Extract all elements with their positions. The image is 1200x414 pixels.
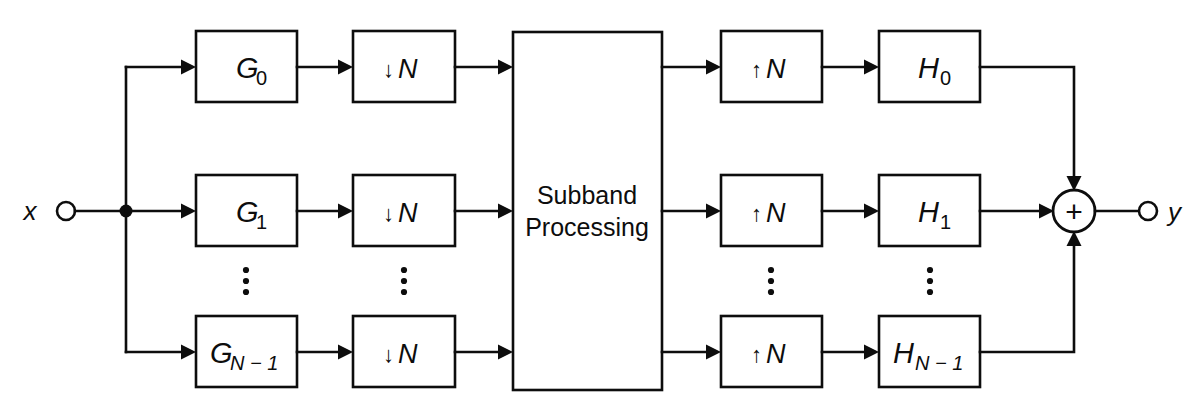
ellipsis-dot [401,289,407,295]
ellipsis-dot [243,278,249,284]
synthesis-filter-h0-subscript: 0 [940,67,951,89]
output-terminal-circle [1139,202,1157,220]
analysis-filter-g1-subscript: 1 [256,211,267,233]
interpolator-n1[interactable]: ↑ N [721,316,822,387]
analysis-filter-g0[interactable]: G 0 [196,31,297,102]
interpolator-1-factor: N [766,198,786,228]
input-terminal-group: x [22,196,133,226]
decimator-0[interactable]: ↓ N [353,31,455,102]
subband-processing-box[interactable] [513,32,662,390]
subband-coding-diagram: x G 0 G 1 G N − 1 [0,0,1200,414]
arrowhead-into-subband-0 [498,60,513,75]
arrowhead-into-h0 [864,60,879,75]
ellipsis-dot [243,267,249,273]
analysis-distribution-bus [126,60,196,360]
synthesis-filter-hn1-base: H [893,337,914,369]
output-label: y [1166,197,1183,227]
synthesis-filter-h0-base: H [918,52,939,84]
arrowhead-into-subband-2 [498,345,513,360]
synthesis-filter-h1-subscript: 1 [940,211,951,233]
input-label: x [22,196,38,226]
arrowhead-into-int0 [706,60,721,75]
arrowhead-into-h1 [864,204,879,219]
interpolator-0[interactable]: ↑ N [721,31,822,102]
arrowhead-into-g1 [181,204,196,219]
synthesis-filter-h1[interactable]: H 1 [879,175,980,246]
wire-hn1-to-summer [980,245,1074,352]
block-diagram-canvas: x G 0 G 1 G N − 1 [0,0,1200,414]
arrowhead-into-gn1 [181,345,196,360]
ellipsis-synthesis-filter-column [927,267,933,295]
arrowhead-into-dec1 [338,204,353,219]
ellipsis-dot [401,278,407,284]
synthesis-filter-hn1-subscript: N − 1 [915,352,963,374]
input-terminal-circle [57,202,75,220]
output-terminal-group: y [1095,197,1183,227]
analysis-filter-g0-subscript: 0 [256,67,267,89]
ellipsis-dot [243,289,249,295]
decimator-1-factor: N [398,198,418,228]
up-arrow-icon-n1: ↑ [751,342,762,367]
ellipsis-dot [401,267,407,273]
down-arrow-icon-1: ↓ [383,201,394,226]
interpolator-to-h-wires [822,60,879,360]
analysis-filter-gn1[interactable]: G N − 1 [196,316,297,387]
interpolator-0-factor: N [766,54,786,84]
ellipsis-interpolator-column [768,267,774,295]
ellipsis-decimator-column [401,267,407,295]
g-to-decimator-wires [297,60,353,360]
decimator-0-factor: N [398,54,418,84]
ellipsis-dot [927,267,933,273]
summer-node[interactable]: + [1053,190,1095,232]
wire-h0-to-summer [980,67,1074,177]
decimator-to-subband-wires [455,60,513,360]
interpolator-n1-factor: N [766,339,786,369]
interpolator-1[interactable]: ↑ N [721,175,822,246]
ellipsis-dot [768,289,774,295]
ellipsis-dot [768,278,774,284]
up-arrow-icon-0: ↑ [751,57,762,82]
ellipsis-dot [768,267,774,273]
subband-to-interpolator-wires [662,60,721,360]
subband-processing-label-line1: Subband [537,181,637,209]
analysis-filter-g1[interactable]: G 1 [196,175,297,246]
arrowhead-into-intn1 [706,345,721,360]
arrowhead-into-decn1 [338,345,353,360]
ellipsis-dot [927,289,933,295]
down-arrow-icon-0: ↓ [383,57,394,82]
down-arrow-icon-n1: ↓ [383,342,394,367]
decimator-1[interactable]: ↓ N [353,175,455,246]
subband-processing-label-line2: Processing [525,213,649,241]
synthesis-filter-hn1[interactable]: H N − 1 [879,316,980,387]
ellipsis-analysis-filter-column [243,267,249,295]
decimator-n1[interactable]: ↓ N [353,316,455,387]
synthesis-filter-h0[interactable]: H 0 [879,31,980,102]
subband-processing-block[interactable]: Subband Processing [513,32,662,390]
arrowhead-into-dec0 [338,60,353,75]
analysis-filter-gn1-subscript: N − 1 [230,352,278,374]
synthesis-filter-h1-base: H [918,196,939,228]
up-arrow-icon-1: ↑ [751,201,762,226]
arrowhead-into-int1 [706,204,721,219]
arrowhead-into-subband-1 [498,204,513,219]
arrowhead-into-g0 [181,60,196,75]
decimator-n1-factor: N [398,339,418,369]
plus-icon: + [1065,195,1083,228]
ellipsis-dot [927,278,933,284]
arrowhead-into-hn1 [864,345,879,360]
